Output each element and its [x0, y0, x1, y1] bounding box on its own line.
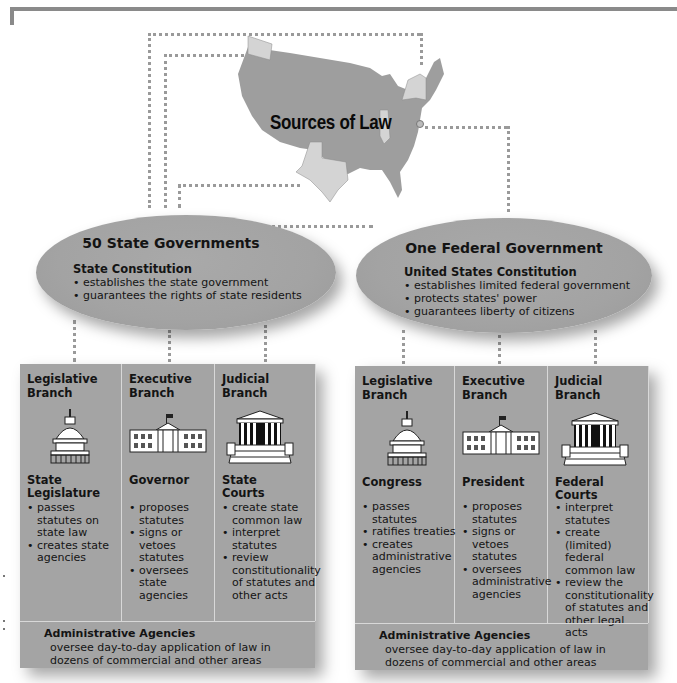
frame-top-border	[10, 7, 677, 11]
duty-item: passes statutes	[362, 501, 456, 526]
role-title: State Courts	[222, 474, 282, 500]
courthouse-icon	[225, 409, 295, 464]
duty-item: review constitutionality of statutes and…	[222, 552, 316, 602]
branch-label: Legislative Branch	[362, 374, 432, 402]
duties-list: passes statutes ratifies treaties create…	[362, 501, 456, 576]
role-title: State Legislature	[27, 474, 107, 500]
admin-description: oversee day-to-day application of law in…	[385, 643, 645, 669]
duty-item: interpret statutes	[555, 502, 649, 527]
state-governments-oval: 50 State Governments State Constitution …	[36, 215, 336, 330]
state-admin-agencies: Administrative Agencies oversee day-to-d…	[20, 621, 315, 669]
duty-item: oversees state agencies	[129, 565, 217, 603]
constitution-point: • establishes the state government	[73, 276, 302, 289]
capitol-dome-icon	[387, 411, 427, 466]
duty-item: proposes statutes	[129, 502, 217, 527]
constitution-point: • guarantees liberty of citizens	[404, 305, 630, 318]
state-judicial-column: Judicial Branch State Courts create stat…	[215, 364, 316, 621]
supreme-court-icon	[560, 411, 630, 466]
admin-description: oversee day-to-day application of law in…	[50, 641, 300, 667]
oval-title: 50 State Governments	[6, 235, 336, 251]
duty-item: ratifies treaties	[362, 526, 456, 539]
dc-marker-icon	[417, 121, 424, 128]
page-title: Sources of Law	[270, 112, 391, 135]
new-york-state-highlight	[402, 74, 426, 100]
admin-title: Administrative Agencies	[379, 629, 530, 642]
branch-label: Executive Branch	[129, 372, 199, 400]
duty-item: signs or vetoes statutes	[129, 527, 217, 565]
duty-item: signs or vetoes statutes	[462, 526, 550, 564]
duties-list: passes statutes on state law creates sta…	[27, 502, 123, 565]
role-title: President	[462, 476, 524, 489]
duties-list: create state common law interpret statut…	[222, 502, 316, 602]
white-house-icon	[461, 416, 541, 456]
constitution-heading: State Constitution	[73, 263, 302, 276]
branch-label: Executive Branch	[462, 374, 532, 402]
duty-item: passes statutes on state law	[27, 502, 123, 540]
federal-executive-column: Executive Branch President proposes stat…	[455, 366, 548, 623]
branch-label: Legislative Branch	[27, 372, 97, 400]
capitol-dome-icon	[50, 409, 90, 464]
state-branches-box: Legislative Branch State Legislature pas…	[20, 364, 315, 668]
duty-item: oversees administrative agencies	[462, 564, 550, 602]
federal-judicial-column: Judicial Branch Federal Courts interpret…	[548, 366, 649, 623]
state-legislative-column: Legislative Branch State Legislature pas…	[20, 364, 122, 621]
federal-branches-box: Legislative Branch Congress passes statu…	[355, 366, 648, 670]
branch-label: Judicial Branch	[555, 374, 615, 402]
duties-list: interpret statutes create (limited) fede…	[555, 502, 649, 640]
us-constitution: United States Constitution • establishes…	[404, 266, 630, 318]
state-executive-column: Executive Branch Governor proposes statu…	[122, 364, 215, 621]
duties-list: proposes statutes signs or vetoes statut…	[129, 502, 217, 602]
constitution-point: • establishes limited federal government	[404, 279, 630, 292]
branch-label: Judicial Branch	[222, 372, 282, 400]
admin-title: Administrative Agencies	[44, 627, 195, 640]
oval-title: One Federal Government	[356, 240, 652, 256]
duty-item: creates state agencies	[27, 540, 123, 565]
federal-government-oval: One Federal Government United States Con…	[356, 218, 652, 333]
constitution-point: • protects states' power	[404, 292, 630, 305]
frame-left-border	[10, 7, 14, 25]
duty-item: create state common law	[222, 502, 316, 527]
governor-mansion-icon	[128, 414, 208, 454]
federal-admin-agencies: Administrative Agencies oversee day-to-d…	[355, 623, 648, 671]
role-title: Federal Courts	[555, 476, 615, 502]
role-title: Governor	[129, 474, 189, 487]
federal-legislative-column: Legislative Branch Congress passes statu…	[355, 366, 455, 623]
constitution-point: • guarantees the rights of state residen…	[73, 289, 302, 302]
constitution-heading: United States Constitution	[404, 266, 630, 279]
duty-item: proposes statutes	[462, 501, 550, 526]
role-title: Congress	[362, 476, 422, 489]
duty-item: interpret statutes	[222, 527, 316, 552]
duty-item: create (limited) federal common law	[555, 527, 649, 577]
state-constitution: State Constitution • establishes the sta…	[73, 263, 302, 302]
duties-list: proposes statutes signs or vetoes statut…	[462, 501, 550, 601]
duty-item: creates administrative agencies	[362, 539, 456, 577]
